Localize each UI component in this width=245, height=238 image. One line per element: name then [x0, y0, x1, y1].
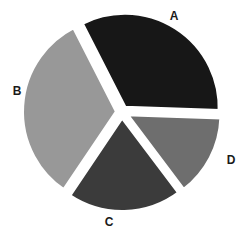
pie-chart-canvas [0, 0, 245, 238]
pie-chart: ABCD [0, 0, 245, 238]
pie-slice-label-d: D [227, 154, 236, 166]
pie-slice-group [22, 13, 221, 212]
pie-slice-label-a: A [170, 10, 179, 22]
pie-slice-label-b: B [13, 85, 22, 97]
pie-slice-label-c: C [105, 216, 114, 228]
